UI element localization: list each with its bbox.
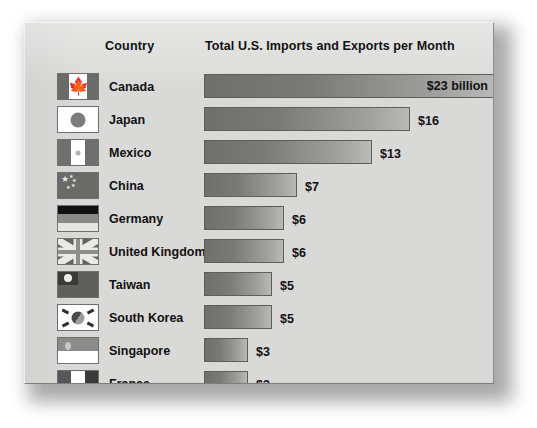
trigram-icon xyxy=(87,309,94,314)
chart-panel: Country Total U.S. Imports and Exports p… xyxy=(24,22,494,384)
chart-row: Japan$16 xyxy=(25,104,493,137)
bar-track: $6 xyxy=(204,239,489,263)
trigram-icon xyxy=(87,322,94,327)
bar xyxy=(204,371,248,384)
chart-header: Country Total U.S. Imports and Exports p… xyxy=(25,39,493,59)
bar-value-label: $16 xyxy=(418,114,439,128)
maple-leaf-icon: 🍁 xyxy=(68,78,89,95)
bar-track: $13 xyxy=(204,140,489,164)
flag-icon-south-korea xyxy=(57,304,99,331)
star-icon: ★ xyxy=(61,175,69,184)
flag-icon-mexico xyxy=(57,139,99,166)
chart-row: South Korea$5 xyxy=(25,302,493,335)
bar-track: $3 xyxy=(204,371,489,384)
bar xyxy=(204,206,284,230)
chart-row: Germany$6 xyxy=(25,203,493,236)
bar: $23 billion xyxy=(204,74,494,98)
chart-row: Taiwan$5 xyxy=(25,269,493,302)
bar xyxy=(204,140,372,164)
flag-icon-germany xyxy=(57,205,99,232)
bar-value-label: $6 xyxy=(292,246,306,260)
country-label: Taiwan xyxy=(109,278,150,292)
sun-disc-icon xyxy=(71,112,86,127)
bar xyxy=(204,239,284,263)
crescent-moon-icon xyxy=(63,342,71,350)
trigram-icon xyxy=(62,309,69,314)
country-label: South Korea xyxy=(109,311,183,325)
bar-value-label: $13 xyxy=(380,147,401,161)
bar-track: $7 xyxy=(204,173,489,197)
bar xyxy=(204,338,248,362)
flag-icon-france xyxy=(57,370,99,384)
chart-row: 🍁Canada$23 billion xyxy=(25,71,493,104)
bar xyxy=(204,107,410,131)
flag-icon-japan xyxy=(57,106,99,133)
flag-icon-taiwan xyxy=(57,271,99,298)
bar-value-label: $3 xyxy=(256,378,270,384)
flag-icon-china: ★★★★★ xyxy=(57,172,99,199)
flag-band-right xyxy=(85,371,98,384)
chart-row: ★★★★★China$7 xyxy=(25,170,493,203)
bar xyxy=(204,272,272,296)
flag-cross-inner-horizontal xyxy=(58,250,98,254)
bar-value-label: $6 xyxy=(292,213,306,227)
bar xyxy=(204,173,297,197)
country-label: France xyxy=(109,377,150,384)
country-label: United Kingdom xyxy=(109,245,206,259)
bar-track: $3 xyxy=(204,338,489,362)
star-icon: ★ xyxy=(66,185,70,190)
bar-value-label: $3 xyxy=(256,345,270,359)
chart-rows: 🍁Canada$23 billionJapan$16Mexico$13★★★★★… xyxy=(25,71,493,384)
bar-track: $16 xyxy=(204,107,489,131)
flag-band-left xyxy=(58,140,71,165)
sun-icon xyxy=(64,274,72,282)
bar-track: $23 billion xyxy=(204,74,489,98)
country-label: Canada xyxy=(109,80,154,94)
chart-title: Total U.S. Imports and Exports per Month xyxy=(205,39,455,53)
bar-value-label: $23 billion xyxy=(427,79,488,93)
taeguk-icon xyxy=(72,311,85,324)
bar-track: $5 xyxy=(204,272,489,296)
chart-row: Singapore$3 xyxy=(25,335,493,368)
flag-icon-canada: 🍁 xyxy=(57,73,99,100)
flag-band-left xyxy=(58,371,71,384)
bar-track: $5 xyxy=(204,305,489,329)
bar-value-label: $7 xyxy=(305,180,319,194)
bar xyxy=(204,305,272,329)
flag-band-middle xyxy=(58,214,98,222)
chart-page: Country Total U.S. Imports and Exports p… xyxy=(0,0,537,428)
bar-track: $6 xyxy=(204,206,489,230)
bar-value-label: $5 xyxy=(280,312,294,326)
flag-band-bottom xyxy=(58,223,98,231)
country-label: Japan xyxy=(109,113,145,127)
flag-icon-united-kingdom xyxy=(57,238,99,265)
coat-of-arms-icon xyxy=(76,150,81,155)
country-label: Mexico xyxy=(109,146,151,160)
flag-icon-singapore xyxy=(57,337,99,364)
chart-row: France$3 xyxy=(25,368,493,384)
country-label: Germany xyxy=(109,212,163,226)
chart-row: Mexico$13 xyxy=(25,137,493,170)
column-header-country: Country xyxy=(105,39,154,53)
star-icon: ★ xyxy=(71,183,75,188)
chart-row: United Kingdom$6 xyxy=(25,236,493,269)
country-label: China xyxy=(109,179,144,193)
flag-band-right xyxy=(85,140,98,165)
country-label: Singapore xyxy=(109,344,170,358)
flag-band-top xyxy=(58,206,98,214)
bar-value-label: $5 xyxy=(280,279,294,293)
trigram-icon xyxy=(62,322,69,327)
